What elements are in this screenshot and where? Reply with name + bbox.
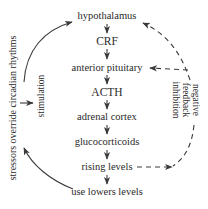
hpa-axis-diagram: hypothalamus CRF anterior pituitary ACTH… xyxy=(0,0,208,209)
node-hypothalamus: hypothalamus xyxy=(78,10,137,21)
negative-feedback-lower-curve xyxy=(173,125,194,166)
node-rising-levels: rising levels xyxy=(81,161,132,172)
label-inhibition: inhibition xyxy=(171,82,181,119)
negative-feedback-to-hypothalamus-arrow xyxy=(143,23,190,80)
node-anterior-pituitary: anterior pituitary xyxy=(72,62,144,73)
label-negative: negative xyxy=(191,84,201,116)
negative-feedback-to-pituitary-arrow xyxy=(150,68,188,70)
label-stressors-override-circadian-rhythms: stressors override circadian rhythms xyxy=(7,36,18,181)
node-adrenal-cortex: adrenal cortex xyxy=(77,111,138,122)
stressor-loop-upper-arrow xyxy=(24,22,72,82)
node-use-lowers-levels: use lowers levels xyxy=(71,186,143,197)
stressor-loop-lower-arrow xyxy=(24,148,73,189)
node-glucocorticoids: glucocorticoids xyxy=(75,136,140,147)
label-stimulation: stimulation xyxy=(36,74,46,117)
node-acth: ACTH xyxy=(91,86,122,98)
node-crf: CRF xyxy=(96,35,118,47)
label-feedback: feedback xyxy=(181,83,191,118)
